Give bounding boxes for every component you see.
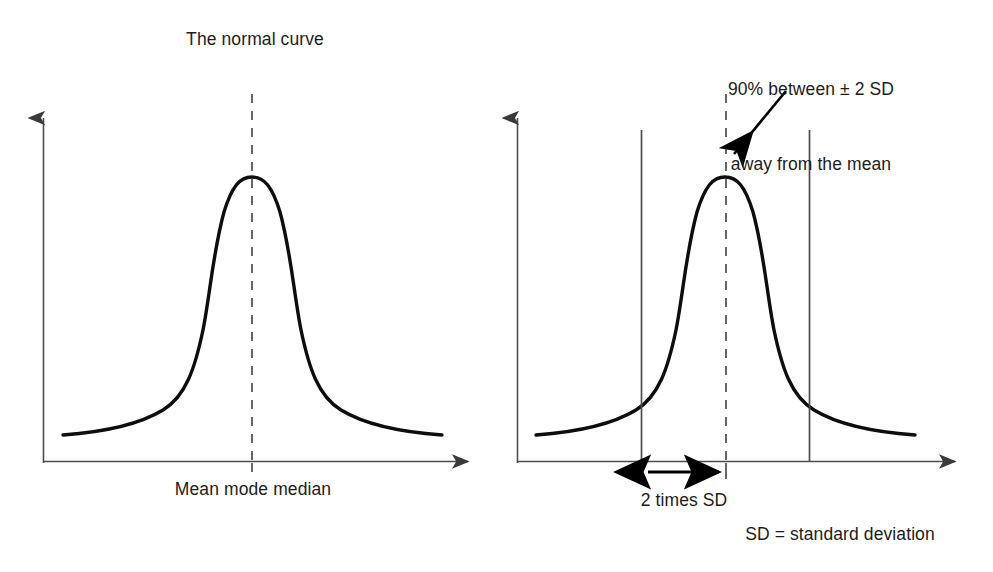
left-panel-title: The normal curve [186, 27, 324, 52]
sd-legend-label: SD = standard deviation [745, 522, 935, 547]
sd-annotation-line-1: 90% between ± 2 SD [728, 77, 894, 102]
sd-annotation: 90% between ± 2 SD away from the mean [728, 27, 894, 227]
mean-mode-median-label: Mean mode median [175, 477, 331, 502]
left-panel [44, 94, 469, 472]
sd-annotation-line-2: away from the mean [728, 152, 894, 177]
normal-curve-figure: The normal curve Mean mode median 90% be… [0, 0, 993, 572]
two-times-sd-label: 2 times SD [641, 488, 728, 513]
